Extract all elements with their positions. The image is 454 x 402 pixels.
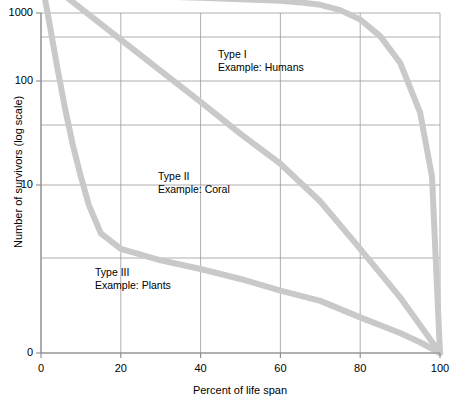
annotation-type-ii-line2: Example: Coral	[158, 183, 230, 196]
x-tick-label-100: 100	[420, 363, 454, 374]
annotation-type-iii-line1: Type III	[95, 266, 171, 279]
x-tick-label-60: 60	[260, 363, 300, 374]
x-tick-label-40: 40	[181, 363, 221, 374]
y-tick-label-100: 100	[0, 75, 33, 86]
annotation-type-i-line1: Type I	[218, 48, 304, 61]
x-tick-label-0: 0	[21, 363, 61, 374]
y-tick-label-0: 0	[0, 347, 33, 358]
y-axis-title: Number of survivors (log scale)	[12, 108, 24, 248]
annotation-type-i: Type I Example: Humans	[218, 48, 304, 74]
y-tick-label-1000: 1000	[0, 7, 33, 18]
annotation-type-ii-line1: Type II	[158, 170, 230, 183]
annotation-type-i-line2: Example: Humans	[218, 61, 304, 74]
annotation-type-iii-line2: Example: Plants	[95, 279, 171, 292]
x-axis-title: Percent of life span	[140, 384, 340, 396]
annotation-type-ii: Type II Example: Coral	[158, 170, 230, 196]
annotation-type-iii: Type III Example: Plants	[95, 266, 171, 292]
x-tick-label-20: 20	[101, 363, 141, 374]
x-tick-label-80: 80	[340, 363, 380, 374]
